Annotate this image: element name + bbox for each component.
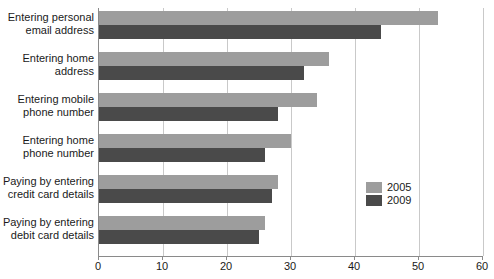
bar-2009 xyxy=(99,148,265,162)
category-label-line: phone number xyxy=(0,106,94,119)
plot-area xyxy=(98,8,483,257)
legend-item-2005: 2005 xyxy=(366,181,428,194)
gridline-60 xyxy=(483,8,484,256)
category-label-line: Paying by entering xyxy=(0,175,94,188)
bar-group xyxy=(99,51,483,84)
bar-2005 xyxy=(99,93,317,107)
legend-swatch-2005 xyxy=(366,182,382,193)
legend-label-2005: 2005 xyxy=(387,181,411,194)
chart-legend: 2005 2009 xyxy=(366,181,428,207)
x-tick-label-60: 60 xyxy=(476,260,488,272)
category-label-line: debit card details xyxy=(0,229,94,242)
category-label-line: phone number xyxy=(0,147,94,160)
bar-chart: Entering personalemail addressEntering h… xyxy=(0,0,494,279)
legend-swatch-2009 xyxy=(366,195,382,206)
category-label: Paying by enteringcredit card details xyxy=(0,175,94,201)
x-tick-label-50: 50 xyxy=(412,260,424,272)
bar-2005 xyxy=(99,52,329,66)
legend-item-2009: 2009 xyxy=(366,194,428,207)
bar-2009 xyxy=(99,25,381,39)
x-tick-label-30: 30 xyxy=(284,260,296,272)
bar-group xyxy=(99,10,483,43)
category-label: Entering homephone number xyxy=(0,134,94,160)
category-label: Entering mobilephone number xyxy=(0,93,94,119)
category-label: Paying by enteringdebit card details xyxy=(0,216,94,242)
bar-2005 xyxy=(99,216,265,230)
category-label-line: email address xyxy=(0,24,94,37)
category-label-line: Paying by entering xyxy=(0,216,94,229)
x-tick-label-10: 10 xyxy=(156,260,168,272)
bar-2009 xyxy=(99,230,259,244)
category-label-line: Entering home xyxy=(0,52,94,65)
category-label-line: Entering personal xyxy=(0,11,94,24)
category-label-line: credit card details xyxy=(0,188,94,201)
category-label-line: Entering mobile xyxy=(0,93,94,106)
category-label-line: Entering home xyxy=(0,134,94,147)
legend-label-2009: 2009 xyxy=(387,194,411,207)
bar-2005 xyxy=(99,134,291,148)
bar-group xyxy=(99,215,483,248)
bar-2005 xyxy=(99,11,438,25)
bar-2009 xyxy=(99,107,278,121)
x-tick-label-0: 0 xyxy=(95,260,101,272)
category-label-line: address xyxy=(0,65,94,78)
x-tick-label-40: 40 xyxy=(348,260,360,272)
x-tick-label-20: 20 xyxy=(220,260,232,272)
bar-2005 xyxy=(99,175,278,189)
category-label: Entering personalemail address xyxy=(0,11,94,37)
bar-group xyxy=(99,92,483,125)
bar-2009 xyxy=(99,189,272,203)
bar-2009 xyxy=(99,66,304,80)
category-label: Entering homeaddress xyxy=(0,52,94,78)
bar-group xyxy=(99,133,483,166)
